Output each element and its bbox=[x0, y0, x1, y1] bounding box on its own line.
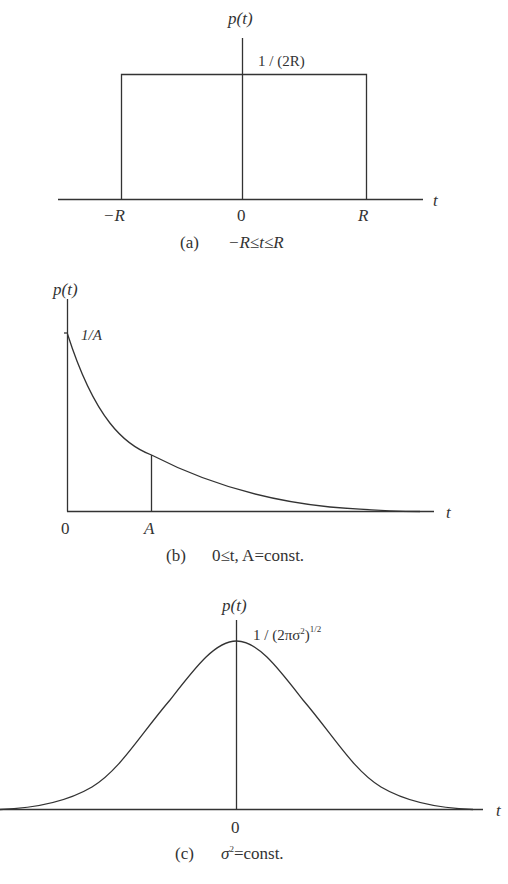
x-tick-r: R bbox=[357, 206, 369, 225]
x-axis-label: t bbox=[496, 801, 502, 820]
x-tick-zero: 0 bbox=[61, 519, 70, 538]
height-annotation: 1 / (2R) bbox=[258, 53, 305, 70]
x-axis-label: t bbox=[446, 503, 452, 522]
peak-annotation: 1/A bbox=[81, 327, 103, 343]
peak-annotation: 1 / (2πσ2)1/2 bbox=[253, 624, 321, 644]
panel-b-exponential: p(t) 1/A t 0 A (b) 0≤t, A=const. bbox=[52, 280, 452, 565]
panel-c-gaussian: p(t) 1 / (2πσ2)1/2 t 0 (c) σ2=const. bbox=[0, 596, 502, 863]
panel-a-uniform: p(t) 1 / (2R) t −R 0 R (a) −R≤t≤R bbox=[58, 9, 439, 252]
caption-condition: σ2=const. bbox=[221, 844, 284, 863]
y-axis-label: p(t) bbox=[52, 280, 78, 299]
figure: p(t) 1 / (2R) t −R 0 R (a) −R≤t≤R p(t) 1… bbox=[0, 0, 508, 884]
exponential-density-curve bbox=[68, 334, 421, 512]
caption-label: (b) bbox=[166, 546, 186, 565]
x-tick-zero: 0 bbox=[231, 818, 240, 837]
caption-label: (c) bbox=[175, 844, 194, 863]
x-tick-a: A bbox=[143, 519, 155, 538]
peak-annotation-sup-outer: 1/2 bbox=[310, 624, 322, 634]
peak-annotation-main: 1 / (2πσ bbox=[253, 627, 300, 644]
y-axis-label: p(t) bbox=[221, 596, 247, 615]
x-tick-neg-r: −R bbox=[103, 206, 125, 225]
caption-condition: −R≤t≤R bbox=[228, 233, 284, 252]
uniform-density-curve bbox=[122, 75, 367, 200]
y-axis-label: p(t) bbox=[227, 9, 253, 28]
x-tick-zero: 0 bbox=[237, 206, 246, 225]
x-axis-label: t bbox=[433, 191, 439, 210]
caption-label: (a) bbox=[180, 233, 199, 252]
caption-condition: 0≤t, A=const. bbox=[212, 546, 304, 565]
caption-rest: =const. bbox=[234, 844, 284, 863]
